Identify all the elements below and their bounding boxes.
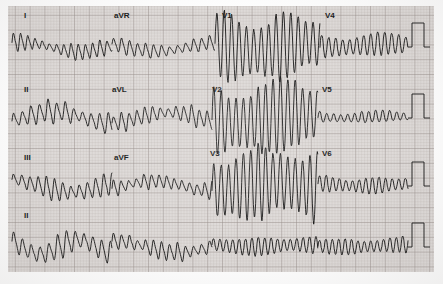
lead-label-v3: V3 — [210, 149, 220, 158]
lead-label-avr: aVR — [114, 11, 130, 20]
lead-label-v2: V2 — [212, 85, 222, 94]
lead-label-iii: III — [24, 153, 31, 162]
lead-label-avl: aVL — [112, 85, 127, 94]
lead-label-v5: V5 — [322, 85, 332, 94]
lead-label-v1: V1 — [222, 11, 232, 20]
lead-label-avf: aVF — [114, 153, 129, 162]
ecg-chart: IaVRV1V4IIaVLV2V5IIIaVFV3V6II — [0, 0, 443, 284]
lead-label-i: I — [24, 11, 26, 20]
lead-label-v4: V4 — [325, 11, 335, 20]
lead-label-ii-rhythm: II — [24, 211, 28, 220]
lead-label-ii: II — [24, 85, 28, 94]
lead-label-v6: V6 — [322, 149, 332, 158]
ecg-page: IaVRV1V4IIaVLV2V5IIIaVFV3V6II — [0, 0, 443, 284]
